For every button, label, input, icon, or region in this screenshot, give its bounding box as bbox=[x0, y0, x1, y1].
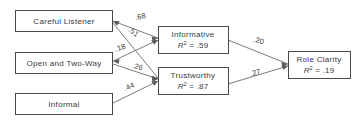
edge-informal-to-trustworthy bbox=[113, 81, 158, 103]
node-trustworthy: Trustworthy R2 = .87 bbox=[159, 68, 229, 95]
coefficient-label-careful-listener-to-informative: .68 bbox=[134, 11, 147, 22]
node-label-trustworthy: Trustworthy bbox=[171, 71, 216, 80]
node-open-and-two-way: Open and Two-Way bbox=[16, 53, 113, 74]
node-label-role-clarity: Role Clarity bbox=[297, 55, 342, 64]
node-careful-listener: Careful Listener bbox=[16, 11, 113, 32]
node-r2-informative: R2 = .59 bbox=[178, 40, 209, 50]
node-label-open-and-two-way: Open and Two-Way bbox=[26, 59, 101, 68]
path-diagram-container: .68 .51 .18 .26 .44 .20 .27 Careful List… bbox=[0, 0, 364, 125]
r2-value: = .19 bbox=[313, 66, 335, 75]
coefficient-label-open-and-two-way-to-informative: .18 bbox=[114, 42, 127, 54]
node-role-clarity: Role Clarity R2 = .19 bbox=[289, 52, 351, 79]
node-label-informative: Informative bbox=[172, 30, 215, 39]
node-informative: Informative R2 = .59 bbox=[159, 27, 229, 54]
node-r2-trustworthy: R2 = .87 bbox=[178, 81, 209, 91]
coefficient-label-trustworthy-to-role-clarity: .27 bbox=[249, 67, 262, 79]
coefficient-label-informative-to-role-clarity: .20 bbox=[252, 35, 265, 47]
r2-value: = .87 bbox=[187, 82, 209, 91]
r2-value: = .59 bbox=[187, 41, 209, 50]
node-label-informal: Informal bbox=[48, 100, 79, 109]
node-informal: Informal bbox=[16, 94, 113, 115]
path-diagram-canvas: .68 .51 .18 .26 .44 .20 .27 Careful List… bbox=[0, 0, 364, 125]
node-r2-role-clarity: R2 = .19 bbox=[304, 65, 335, 75]
edge-line bbox=[113, 81, 158, 103]
node-label-careful-listener: Careful Listener bbox=[33, 17, 94, 26]
coefficient-label-informal-to-trustworthy: .44 bbox=[122, 80, 136, 92]
